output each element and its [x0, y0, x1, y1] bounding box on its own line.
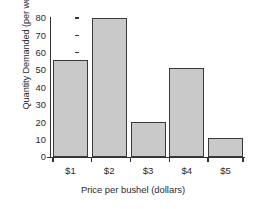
- y-axis-tick-label: 60: [28, 48, 46, 57]
- x-axis-tick-label: $4: [167, 165, 207, 176]
- y-axis-tick-label: 0: [28, 152, 46, 161]
- bar: [92, 18, 127, 157]
- x-axis-title: Price per bushel (dollars): [0, 184, 266, 195]
- bar: [53, 60, 88, 157]
- x-axis-tick-label: $5: [206, 165, 246, 176]
- bar-chart: Quantity Demanded (per week) 01020304050…: [0, 0, 266, 209]
- x-axis-tick-label: $1: [50, 165, 90, 176]
- x-axis-tick-mark: [130, 158, 131, 162]
- y-axis-tick-label: 70: [28, 31, 46, 40]
- y-axis-tick-label: 40: [28, 83, 46, 92]
- x-axis-tick-mark: [169, 158, 170, 162]
- y-axis-tick-label: 30: [28, 100, 46, 109]
- x-axis-tick-label: $2: [89, 165, 129, 176]
- x-axis-tick-mark: [52, 158, 53, 162]
- x-axis-tick-label: $3: [128, 165, 168, 176]
- bar: [208, 138, 243, 157]
- x-axis-tick-mark: [207, 158, 208, 162]
- y-axis-tick-label: 10: [28, 135, 46, 144]
- x-axis-tick-mark: [91, 158, 92, 162]
- y-axis-tick-labels: 01020304050607080: [27, 0, 46, 209]
- y-axis-tick-label: 50: [28, 65, 46, 74]
- x-axis-tick-mark: [242, 158, 243, 162]
- bar: [131, 122, 166, 157]
- bar: [169, 68, 204, 157]
- plot-area: [51, 16, 246, 157]
- y-axis-tick-label: 80: [28, 13, 46, 22]
- y-axis-tick-label: 20: [28, 118, 46, 127]
